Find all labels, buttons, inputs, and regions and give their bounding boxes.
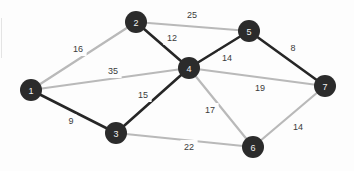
graph-node[interactable]: 2 — [125, 11, 147, 33]
graph-node[interactable]: 1 — [20, 79, 42, 101]
edge-weight-label: 19 — [255, 83, 265, 93]
graph-diagram-canvas: 1635925121522141917814 1234567 — [0, 0, 354, 171]
node-label: 2 — [133, 18, 138, 28]
graph-svg: 1635925121522141917814 1234567 — [0, 0, 354, 171]
edge-weight-label: 15 — [138, 90, 148, 100]
edge-weight-label: 35 — [108, 66, 118, 76]
edge-weight-label: 12 — [167, 33, 177, 43]
node-label: 4 — [186, 64, 191, 74]
graph-node[interactable]: 6 — [242, 136, 264, 158]
node-label: 5 — [246, 27, 251, 37]
graph-node[interactable]: 4 — [178, 57, 200, 79]
node-label: 1 — [28, 86, 33, 96]
graph-node[interactable]: 3 — [105, 122, 127, 144]
node-label: 6 — [250, 143, 255, 153]
edge-weight-label: 16 — [73, 44, 83, 54]
graph-node[interactable]: 5 — [238, 20, 260, 42]
graph-node[interactable]: 7 — [314, 75, 336, 97]
node-label: 7 — [322, 82, 327, 92]
edge-weight-label: 22 — [184, 142, 194, 152]
edge-weight-label: 14 — [293, 122, 303, 132]
graph-edge — [253, 86, 325, 147]
edge-weight-label: 9 — [68, 116, 73, 126]
edge-weight-label: 25 — [187, 10, 197, 20]
edge-weight-label: 8 — [290, 43, 295, 53]
edge-weight-label: 17 — [205, 105, 215, 115]
edge-weight-label: 14 — [222, 53, 232, 63]
graph-edge — [136, 22, 249, 31]
node-label: 3 — [113, 129, 118, 139]
graph-edge — [189, 68, 253, 147]
